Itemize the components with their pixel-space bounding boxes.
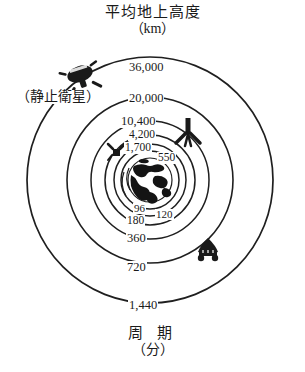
- altitude-label-550: 550: [157, 152, 176, 164]
- period-label-1440: 1,440: [128, 299, 158, 312]
- altitude-label-10400: 10,400: [120, 115, 156, 128]
- period-label-180: 180: [126, 215, 145, 227]
- chart-title-main: 平均地上高度: [0, 4, 305, 21]
- chart-title-unit: （km）: [0, 21, 305, 37]
- altitude-label-1700: 1,700: [124, 142, 152, 154]
- period-label-360: 360: [126, 232, 147, 245]
- altitude-label-36000: 36,000: [128, 61, 164, 74]
- period-label-120: 120: [155, 209, 174, 220]
- period-label-96: 96: [133, 203, 146, 214]
- chart-title: 平均地上高度 （km）: [0, 4, 305, 37]
- satellite-orbit-diagram: { "title": { "main": "平均地上高度", "unit": "…: [0, 0, 305, 372]
- geostationary-satellite-label: （静止衛星）: [16, 90, 100, 104]
- orbit-rings-svg: [0, 0, 305, 372]
- chart-footer-main: 周 期: [0, 325, 305, 342]
- satellite-upper-right-icon: [176, 118, 200, 146]
- chart-footer-unit: （分）: [0, 342, 305, 358]
- satellite-lower-right-icon: [198, 238, 218, 261]
- altitude-label-20000: 20,000: [128, 92, 164, 105]
- altitude-label-4200: 4,200: [128, 129, 156, 141]
- earth-icon: [128, 158, 172, 204]
- period-label-720: 720: [126, 261, 147, 274]
- chart-footer: 周 期 （分）: [0, 325, 305, 358]
